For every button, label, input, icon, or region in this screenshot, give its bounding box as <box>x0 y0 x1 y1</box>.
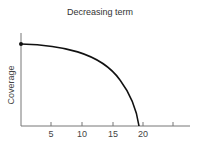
x-tick-20: 20 <box>133 129 153 139</box>
start-point-marker <box>19 42 23 46</box>
coverage-curve <box>21 44 139 126</box>
x-tick-10: 10 <box>72 129 92 139</box>
chart-plot <box>0 0 200 156</box>
x-ticks <box>51 122 173 126</box>
x-tick-5: 5 <box>41 129 61 139</box>
x-tick-15: 15 <box>103 129 123 139</box>
